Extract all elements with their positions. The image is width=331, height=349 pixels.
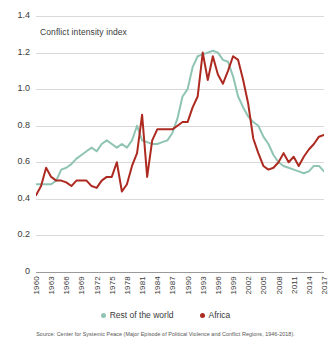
- x-axis-tick-label: 1987: [168, 276, 177, 295]
- x-axis-tick-label: 1984: [153, 276, 162, 295]
- y-axis-tick-label: 0: [0, 267, 30, 276]
- x-axis-tick-label: 1990: [184, 276, 193, 295]
- x-axis-tick-label: 1981: [138, 276, 147, 295]
- legend-item[interactable]: Africa: [200, 310, 231, 320]
- y-axis-tick-label: 1.0: [0, 84, 30, 93]
- y-axis-tick-label: 0.6: [0, 157, 30, 166]
- y-axis-tick-label: 0.2: [0, 230, 30, 239]
- x-axis-tick-label: 1969: [77, 276, 86, 295]
- series-line-rest-of-the-world: [36, 51, 324, 184]
- x-axis-tick-label: 2011: [290, 276, 299, 294]
- x-axis-tick-label: 2002: [244, 276, 253, 295]
- legend-dot-icon: [200, 313, 205, 318]
- x-axis-tick-label: 1972: [93, 276, 102, 295]
- x-axis-tick-label: 1996: [214, 276, 223, 295]
- legend-label: Rest of the world: [110, 310, 174, 320]
- x-axis-labels: 1960196319661969197219751978198119841987…: [36, 276, 324, 310]
- legend-dot-icon: [101, 313, 106, 318]
- series-lines: [36, 16, 324, 272]
- x-axis-tick-label: 1960: [32, 276, 41, 295]
- chart-legend: Rest of the worldAfrica: [0, 310, 331, 320]
- y-axis-tick-label: 0.4: [0, 194, 30, 203]
- x-axis-tick-label: 1963: [47, 276, 56, 295]
- y-axis-tick-label: 1.2: [0, 48, 30, 57]
- legend-label: Africa: [209, 310, 231, 320]
- x-axis-tick-label: 2014: [305, 276, 314, 295]
- chart-container: 00.20.40.60.81.01.21.4 Conflict intensit…: [0, 0, 331, 349]
- x-axis-tick-label: 2008: [275, 276, 284, 295]
- plot-area: [36, 16, 324, 272]
- x-axis-line: [36, 272, 324, 273]
- x-axis-tick-label: 1978: [123, 276, 132, 295]
- y-axis-tick-label: 0.8: [0, 121, 30, 130]
- legend-item[interactable]: Rest of the world: [101, 310, 174, 320]
- series-line-africa: [36, 53, 324, 196]
- x-axis-tick-label: 2017: [320, 276, 329, 295]
- y-axis-tick-label: 1.4: [0, 11, 30, 20]
- x-axis-tick-label: 2005: [259, 276, 268, 295]
- x-axis-tick-label: 1993: [199, 276, 208, 295]
- y-axis-labels: 00.20.40.60.81.01.21.4: [0, 16, 30, 272]
- source-note: Source: Center for Systemic Peace (Major…: [0, 331, 331, 337]
- chart-title: Conflict intensity index: [40, 27, 127, 37]
- x-axis-tick-label: 1975: [108, 276, 117, 295]
- x-axis-tick-label: 1966: [62, 276, 71, 295]
- x-axis-tick-label: 1999: [229, 276, 238, 295]
